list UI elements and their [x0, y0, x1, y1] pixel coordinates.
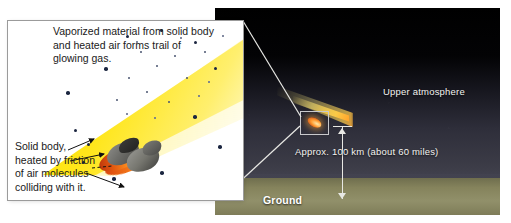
air-molecule-dot	[74, 129, 77, 132]
arrow-up-icon	[338, 128, 346, 134]
air-molecule-dot	[116, 99, 118, 101]
label-distance: Approx. 100 km (about 60 miles)	[295, 146, 439, 159]
air-molecule-dot	[146, 91, 148, 93]
magnification-region-box	[300, 111, 329, 135]
distance-measure-line	[342, 127, 343, 199]
diagram-canvas: Upper atmosphere Approx. 100 km (about 6…	[0, 0, 511, 223]
annotation-solid-body: Solid body, heated by friction of air mo…	[15, 140, 95, 194]
air-molecule-dot	[222, 35, 224, 37]
atmosphere-scene: Upper atmosphere Approx. 100 km (about 6…	[215, 8, 500, 215]
label-upper-atmosphere: Upper atmosphere	[383, 86, 465, 97]
air-molecule-dot	[168, 101, 170, 103]
meteoroid-solid-body	[96, 135, 178, 189]
ground-band	[215, 178, 500, 215]
air-molecule-dot	[154, 117, 156, 119]
annotation-vaporized-material: Vaporized material from solid body and h…	[53, 25, 214, 66]
air-molecule-dot	[66, 91, 70, 95]
arrow-down-icon	[338, 193, 346, 199]
inset-magnified-panel: Vaporized material from solid body and h…	[7, 20, 244, 201]
air-molecule-dot	[128, 77, 130, 79]
air-molecule-dot	[126, 113, 128, 115]
air-molecule-dot	[186, 77, 188, 79]
air-molecule-dot	[208, 81, 210, 83]
air-molecule-dot	[104, 67, 108, 71]
air-molecule-dot	[218, 145, 222, 149]
air-molecule-dot	[214, 67, 217, 70]
air-molecule-dot	[198, 95, 200, 97]
label-ground: Ground	[263, 194, 302, 206]
air-molecule-dot	[193, 115, 197, 119]
